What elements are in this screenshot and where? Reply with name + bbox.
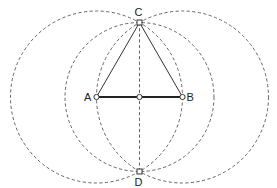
point-b <box>180 94 185 99</box>
segment-ac <box>97 23 140 98</box>
label-b: B <box>187 91 194 103</box>
label-a: A <box>84 91 92 103</box>
point-c <box>137 20 142 25</box>
label-c: C <box>135 6 143 18</box>
point-midpoint <box>137 94 142 99</box>
diagram-canvas: C A B D <box>0 0 277 188</box>
construction-svg: C A B D <box>0 0 277 188</box>
label-d: D <box>135 176 143 188</box>
point-d <box>137 169 142 174</box>
segment-bc <box>140 23 183 98</box>
point-a <box>94 94 99 99</box>
